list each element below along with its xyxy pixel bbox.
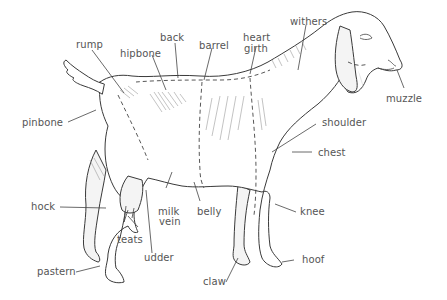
label-pinbone: pinbone bbox=[22, 117, 63, 128]
label-withers: withers bbox=[290, 16, 327, 27]
label-udder: udder bbox=[144, 252, 174, 263]
label-knee: knee bbox=[300, 206, 325, 217]
label-hock: hock bbox=[31, 201, 55, 212]
label-chest: chest bbox=[318, 147, 346, 158]
label-rump: rump bbox=[76, 39, 103, 50]
label-heart-girth-line2: girth bbox=[244, 43, 268, 54]
label-milk-vein-line2: vein bbox=[159, 216, 181, 227]
label-muzzle: muzzle bbox=[386, 93, 422, 104]
label-barrel: barrel bbox=[199, 40, 229, 51]
label-shoulder: shoulder bbox=[322, 117, 366, 128]
label-hipbone: hipbone bbox=[120, 48, 161, 59]
label-hoof: hoof bbox=[302, 254, 325, 265]
label-claw: claw bbox=[203, 276, 226, 287]
label-belly: belly bbox=[197, 206, 221, 217]
goat-anatomy-diagram: rump hipbone back barrel heart girth wit… bbox=[0, 0, 447, 300]
label-heart-girth-line1: heart bbox=[243, 32, 270, 43]
label-back: back bbox=[160, 32, 184, 43]
label-pastern: pastern bbox=[37, 266, 76, 277]
label-teats: teats bbox=[117, 234, 143, 245]
